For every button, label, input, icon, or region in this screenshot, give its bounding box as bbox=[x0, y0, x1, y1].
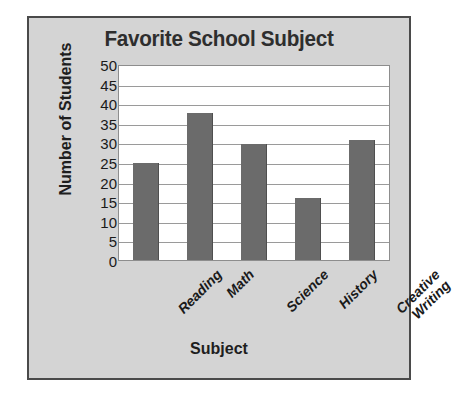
y-tick-label: 50 bbox=[77, 58, 117, 73]
y-tick-label: 30 bbox=[77, 136, 117, 151]
bar bbox=[187, 113, 213, 260]
bar bbox=[349, 140, 375, 260]
x-axis-tick-labels: ReadingMathScienceHistoryCreativeWriting bbox=[118, 263, 390, 341]
y-tick-label: 5 bbox=[77, 234, 117, 249]
y-tick-label: 0 bbox=[77, 254, 117, 269]
y-axis-tick-labels: 50454035302520151050 bbox=[77, 65, 117, 261]
x-tick-label: History bbox=[337, 267, 381, 311]
y-tick-label: 20 bbox=[77, 175, 117, 190]
x-tick-label: CreativeWriting bbox=[393, 267, 453, 327]
chart-figure: Favorite School Subject Number of Studen… bbox=[27, 16, 411, 380]
x-tick-label: Math bbox=[223, 267, 256, 300]
bar bbox=[241, 144, 267, 260]
y-axis-title: Number of Students bbox=[57, 19, 75, 219]
x-tick-label: Science bbox=[284, 267, 332, 315]
plot-area bbox=[118, 65, 390, 261]
bar-series bbox=[119, 66, 389, 260]
chart-title: Favorite School Subject bbox=[40, 26, 397, 52]
bar bbox=[295, 198, 321, 260]
y-tick-label: 25 bbox=[77, 156, 117, 171]
y-tick-label: 45 bbox=[77, 77, 117, 92]
x-axis-title: Subject bbox=[29, 340, 409, 358]
bar bbox=[133, 163, 159, 260]
x-tick-label: Reading bbox=[175, 267, 224, 316]
y-tick-label: 15 bbox=[77, 195, 117, 210]
y-tick-label: 40 bbox=[77, 97, 117, 112]
y-tick-label: 10 bbox=[77, 214, 117, 229]
y-tick-label: 35 bbox=[77, 116, 117, 131]
